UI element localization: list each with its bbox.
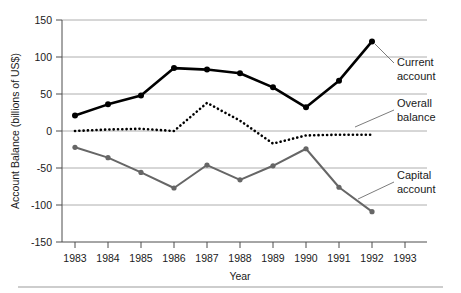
series-overall-balance <box>75 103 372 144</box>
data-point <box>336 78 342 84</box>
x-tick-label-1984: 1984 <box>96 252 120 264</box>
x-tick-label-1983: 1983 <box>63 252 87 264</box>
x-tick-label-1989: 1989 <box>261 252 285 264</box>
x-tick-label-1985: 1985 <box>129 252 153 264</box>
annotation-capital-account: Capital account <box>397 169 436 195</box>
data-point <box>237 70 243 76</box>
annotation-overall-balance: Overall balance <box>397 97 436 123</box>
data-point <box>369 209 374 214</box>
data-point <box>270 163 275 168</box>
account-balance-line-chart: 150 100 50 0 -50 -100 -150 Account Balan… <box>0 0 461 293</box>
data-point <box>105 155 110 160</box>
annotation-overall-balance-line2: balance <box>397 111 436 123</box>
annotation-current-account-line1: Current <box>397 56 434 68</box>
x-tick-label-1991: 1991 <box>327 252 351 264</box>
x-tick-label-1987: 1987 <box>195 252 219 264</box>
annotation-current-account: Current account <box>397 56 436 82</box>
data-point <box>270 84 276 90</box>
data-point <box>369 38 375 44</box>
y-tick-label-150: 150 <box>34 14 52 26</box>
x-tick-label-1993: 1993 <box>393 252 417 264</box>
y-tick-label-50: 50 <box>40 88 52 100</box>
data-point <box>336 185 341 190</box>
series-line-2 <box>75 147 372 211</box>
x-tick-label-1988: 1988 <box>228 252 252 264</box>
data-point <box>303 146 308 151</box>
x-tick-label-1990: 1990 <box>294 252 318 264</box>
y-tick-label-0: 0 <box>46 125 52 137</box>
data-point <box>237 177 242 182</box>
y-tick-label-neg50: -50 <box>37 162 52 174</box>
leader-capital-account <box>358 182 394 199</box>
x-tick-marks <box>75 242 405 248</box>
data-point <box>72 112 78 118</box>
series-capital-account <box>72 145 374 215</box>
y-tick-label-100: 100 <box>34 51 52 63</box>
leader-overall-balance <box>355 110 394 127</box>
series-line-0 <box>75 41 372 115</box>
data-point <box>303 104 309 110</box>
series-line-1 <box>75 103 372 144</box>
y-tick-labels: 150 100 50 0 -50 -100 -150 <box>31 14 52 248</box>
data-point <box>105 101 111 107</box>
x-tick-label-1992: 1992 <box>360 252 384 264</box>
data-point <box>204 162 209 167</box>
series-current-account <box>72 38 375 118</box>
y-tick-label-neg150: -150 <box>31 236 52 248</box>
y-tick-marks <box>56 20 62 242</box>
data-point <box>171 185 176 190</box>
x-tick-labels: 1983 1984 1985 1986 1987 1988 1989 1990 … <box>63 252 417 264</box>
data-point <box>72 145 77 150</box>
data-point <box>171 65 177 71</box>
annotation-current-account-line2: account <box>397 70 436 82</box>
annotation-capital-account-line2: account <box>397 183 436 195</box>
annotation-capital-account-line1: Capital <box>397 169 431 181</box>
data-point <box>138 170 143 175</box>
y-axis-title: Account Balance (billions of US$) <box>9 53 21 209</box>
annotation-leaders <box>355 44 394 199</box>
annotation-overall-balance-line1: Overall <box>397 97 432 109</box>
leader-current-account <box>375 44 394 63</box>
chart-figure: 150 100 50 0 -50 -100 -150 Account Balan… <box>0 0 461 293</box>
data-point <box>204 67 210 73</box>
data-point <box>138 92 144 98</box>
series-layer <box>72 38 375 214</box>
x-tick-label-1986: 1986 <box>162 252 186 264</box>
y-tick-label-neg100: -100 <box>31 199 52 211</box>
x-axis-title: Year <box>229 270 251 282</box>
